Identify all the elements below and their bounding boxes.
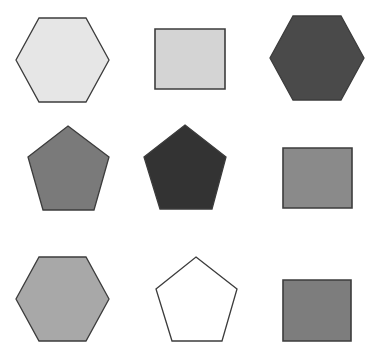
rectangle-shape-r2c3 — [283, 148, 352, 208]
rectangle-shape-r1c2 — [155, 29, 225, 89]
rectangle-shape-r3c3 — [283, 280, 351, 341]
shapes-layer — [16, 16, 364, 341]
shape-grid-figure — [0, 0, 370, 348]
